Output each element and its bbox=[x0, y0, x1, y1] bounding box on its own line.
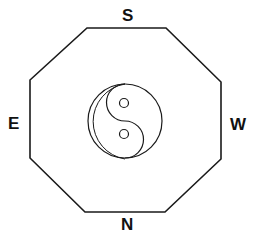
bagua-diagram bbox=[0, 0, 259, 250]
yin-yang-icon bbox=[88, 84, 162, 159]
direction-label-west: W bbox=[230, 116, 246, 133]
direction-label-east: E bbox=[8, 115, 19, 132]
direction-label-south: S bbox=[122, 7, 133, 24]
octagon-outline bbox=[30, 28, 221, 212]
direction-label-north: N bbox=[121, 216, 133, 233]
